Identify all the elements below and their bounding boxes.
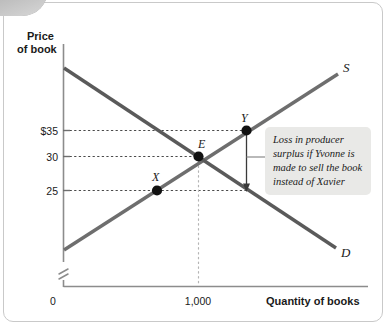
demand-curve-label: D bbox=[340, 245, 351, 260]
point-y-label: Y bbox=[241, 111, 249, 125]
y-axis-break-icon bbox=[59, 269, 68, 279]
loss-callout-box: Loss in producer surplus if Yvonne is ma… bbox=[265, 127, 371, 195]
point-e-marker bbox=[193, 151, 203, 161]
point-e-label: E bbox=[197, 137, 206, 151]
y-tick-label-25: 25 bbox=[46, 185, 58, 197]
loss-arrow bbox=[243, 134, 250, 192]
point-y-marker bbox=[241, 125, 251, 135]
y-axis-title-line1: Price bbox=[27, 30, 54, 42]
point-x-label: X bbox=[151, 170, 160, 184]
supply-demand-figure: Price of book $35 30 25 0 1,000 Quantity… bbox=[0, 0, 391, 331]
y-tick-label-35: $35 bbox=[40, 125, 58, 137]
supply-curve-label: S bbox=[343, 60, 350, 75]
point-x-marker bbox=[152, 185, 162, 195]
loss-callout-text: Loss in producer surplus if Yvonne is ma… bbox=[273, 133, 364, 188]
y-tick-label-30: 30 bbox=[46, 151, 58, 163]
x-axis-title: Quantity of books bbox=[266, 295, 360, 307]
x-origin-label: 0 bbox=[50, 295, 56, 307]
y-axis-title-line2: of book bbox=[17, 43, 58, 55]
x-tick-label-1000: 1,000 bbox=[185, 295, 211, 307]
